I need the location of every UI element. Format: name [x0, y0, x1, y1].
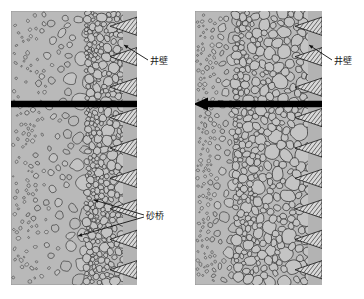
well-wall-teeth [110, 17, 137, 279]
label-sand-bridge-left: 砂桥 [146, 212, 164, 221]
well-wall-teeth [295, 17, 322, 279]
panel-graphic-left [11, 11, 137, 285]
panel-right [195, 11, 322, 285]
label-well-wall-right: 井壁 [334, 57, 352, 66]
panel-graphic-right [195, 11, 322, 285]
figure-canvas: 井壁 砂桥 井壁 [0, 0, 364, 299]
label-well-wall-left: 井壁 [150, 57, 168, 66]
panel-left [11, 11, 137, 285]
